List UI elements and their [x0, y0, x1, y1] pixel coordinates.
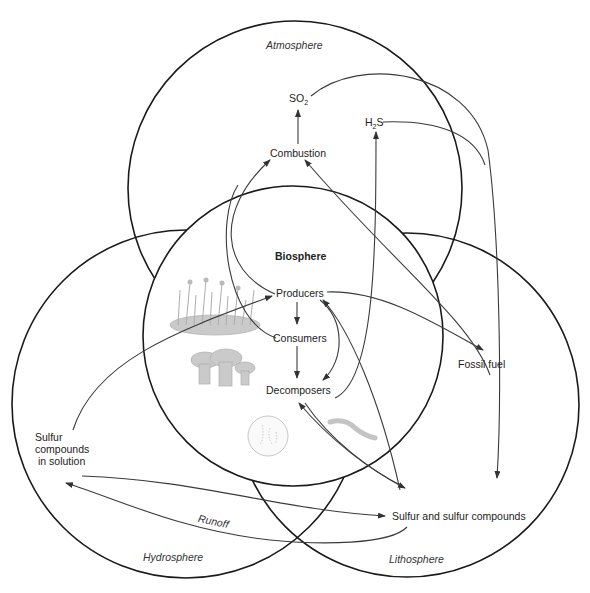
h2s-node: H2S — [365, 116, 384, 133]
fossil-fuel-node: Fossil fuel — [458, 358, 505, 370]
bacteria-illustration — [248, 416, 288, 456]
consumers-node: Consumers — [273, 332, 327, 344]
producers-node: Producers — [276, 287, 324, 299]
biosphere-label: Biosphere — [275, 250, 326, 262]
sulfur-compounds-node: Sulfur and sulfur compounds — [392, 510, 526, 522]
combustion-node: Combustion — [270, 147, 326, 159]
so2-node: SO2 — [289, 92, 308, 109]
sulfur-solution-node: Sulfur compounds in solution — [35, 431, 89, 467]
lithosphere-label: Lithosphere — [389, 553, 444, 565]
decomposers-node: Decomposers — [266, 384, 331, 396]
hydrosphere-label: Hydrosphere — [143, 551, 203, 563]
atmosphere-label: Atmosphere — [266, 39, 323, 51]
